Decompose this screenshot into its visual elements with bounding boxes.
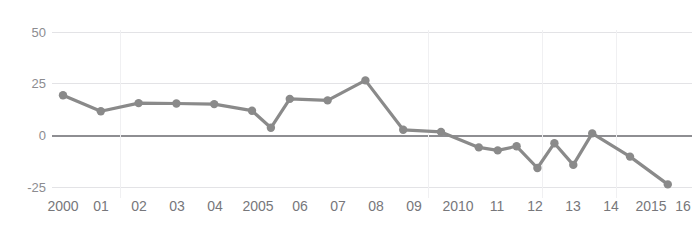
chart-container: 50 25 0 -25 2000 01 02 03 04 2005 06 07 … — [0, 0, 692, 231]
plot-area: 50 25 0 -25 2000 01 02 03 04 2005 06 07 … — [0, 0, 692, 231]
data-point — [210, 100, 218, 108]
data-point — [399, 126, 407, 134]
data-point — [361, 76, 369, 84]
data-point — [437, 128, 445, 136]
data-point — [97, 107, 105, 115]
data-point — [588, 129, 596, 137]
data-point — [494, 146, 502, 154]
data-point — [533, 164, 541, 172]
data-point — [134, 99, 142, 107]
data-point — [626, 152, 634, 160]
data-point — [286, 95, 294, 103]
data-point — [512, 142, 520, 150]
data-point — [475, 143, 483, 151]
data-point — [172, 99, 180, 107]
data-point — [664, 180, 672, 188]
data-series-line — [0, 0, 692, 231]
data-point — [267, 124, 275, 132]
data-point — [59, 91, 67, 99]
data-point — [323, 96, 331, 104]
data-point — [569, 161, 577, 169]
data-point — [550, 139, 558, 147]
data-point — [248, 107, 256, 115]
